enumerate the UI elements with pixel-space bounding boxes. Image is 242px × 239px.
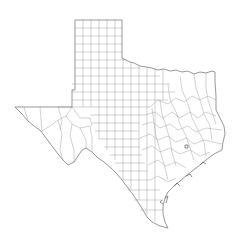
texas-county-map	[0, 0, 242, 239]
state-outline	[15, 20, 225, 228]
